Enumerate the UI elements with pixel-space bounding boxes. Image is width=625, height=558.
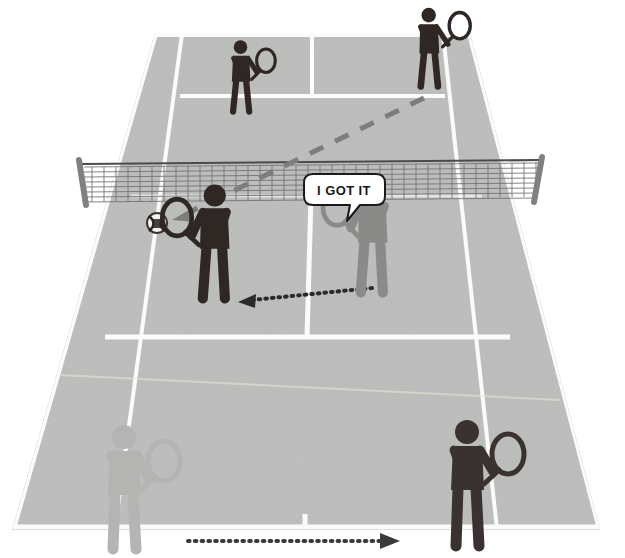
court-surface	[12, 33, 600, 530]
speech-bubble-label: I GOT IT	[317, 183, 371, 198]
head	[421, 8, 436, 23]
head	[234, 40, 248, 54]
leg-left	[361, 241, 365, 293]
court-canvas: I GOT IT	[0, 0, 625, 558]
leg-right	[133, 493, 136, 549]
leg-left	[203, 247, 207, 299]
leg-left	[421, 52, 424, 86]
leg-left	[113, 493, 115, 549]
head	[204, 184, 226, 206]
leg-right	[380, 241, 383, 293]
bottom-movement-arrow	[188, 533, 400, 549]
net-right-post	[534, 157, 542, 202]
leg-left	[456, 488, 458, 546]
leg-right	[246, 81, 249, 112]
leg-left	[233, 81, 236, 112]
leg-right	[222, 247, 225, 299]
head	[112, 425, 136, 449]
leg-right	[476, 488, 479, 546]
leg-right	[435, 52, 438, 86]
head	[455, 420, 479, 444]
tennis-court-diagram: I GOT IT	[0, 0, 625, 558]
